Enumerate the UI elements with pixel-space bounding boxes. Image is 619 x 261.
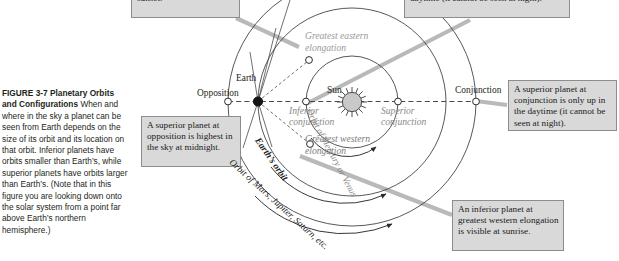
label-opposition: Opposition	[197, 88, 239, 98]
marker-earth	[253, 97, 262, 106]
marker-conjunction	[473, 98, 480, 105]
callout-superior-conjunction: or superior conjunction is only up in th…	[404, 0, 570, 18]
figure-caption: FIGURE 3-7 Planetary Orbits and Configur…	[2, 88, 130, 236]
callout-greatest-western-elongation: An inferior planet at greatest western e…	[452, 200, 564, 251]
label-conjunction: Conjunction	[455, 85, 501, 95]
marker-opposition	[225, 98, 232, 105]
callout-conjunction: A superior planet at conjunction is only…	[508, 80, 617, 131]
callout-opposition: A superior planet at opposition is highe…	[141, 116, 241, 167]
marker-greatest-eastern-elongation	[306, 57, 313, 64]
marker-superior-conjunction	[395, 98, 402, 105]
label-greatest-eastern-elongation: Greatest eastern elongation	[305, 30, 399, 53]
figure-panel: FIGURE 3-7 Planetary Orbits and Configur…	[0, 0, 619, 261]
label-sun: Sun	[327, 85, 342, 95]
label-superior-conjunction: Superior conjunction	[381, 105, 437, 127]
marker-inferior-conjunction	[303, 98, 310, 105]
figure-number: FIGURE 3-7	[2, 88, 48, 98]
label-earth: Earth	[236, 73, 256, 83]
callout-greatest-eastern-elongation: elongation is visible at sunset.	[131, 0, 240, 18]
figure-caption-text: When and where in the sky a planet can b…	[2, 99, 127, 234]
